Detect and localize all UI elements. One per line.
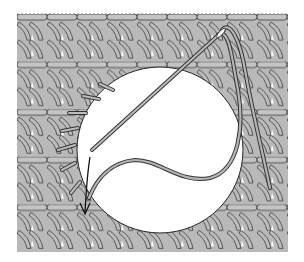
hole <box>77 67 243 233</box>
illustration <box>0 0 304 262</box>
darning-diagram <box>0 0 304 262</box>
